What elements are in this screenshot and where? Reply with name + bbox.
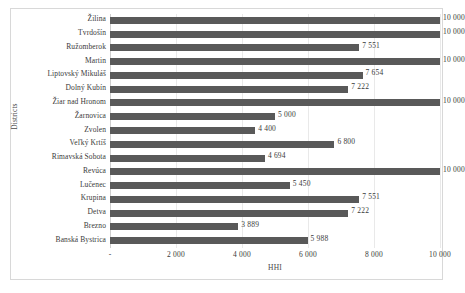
gridline — [440, 14, 441, 248]
bar-value-label: 6 800 — [337, 137, 355, 146]
bar-value-label: 10 000 — [443, 27, 465, 36]
bar-row[interactable]: 10 000 — [110, 56, 440, 69]
bar-row[interactable]: 4 400 — [110, 125, 440, 138]
x-tick-label: 6 000 — [299, 250, 317, 259]
bar-value-label: 7 222 — [351, 206, 369, 215]
bar[interactable] — [110, 210, 348, 217]
bar[interactable] — [110, 237, 308, 244]
category-label: Liptovský Mikuláš — [18, 69, 106, 78]
bar-value-label: 7 222 — [351, 82, 369, 91]
bar-row[interactable]: 5 450 — [110, 180, 440, 193]
bar-row[interactable]: 5 988 — [110, 235, 440, 248]
category-label: Krupina — [18, 193, 106, 202]
bar-row[interactable]: 10 000 — [110, 166, 440, 179]
bar[interactable] — [110, 72, 363, 79]
category-axis-labels: ŽilinaTvrdošínRužomberokMartinLiptovský … — [18, 14, 106, 248]
category-label: Tvrdošín — [18, 28, 106, 37]
bar[interactable] — [110, 127, 255, 134]
category-label: Detva — [18, 207, 106, 216]
bar[interactable] — [110, 86, 348, 93]
category-label: Lučenec — [18, 180, 106, 189]
bar-row[interactable]: 7 654 — [110, 69, 440, 82]
category-label: Dolný Kubín — [18, 83, 106, 92]
category-label: Žarnovica — [18, 111, 106, 120]
category-label: Rimavská Sobota — [18, 152, 106, 161]
bar-value-label: 4 694 — [268, 151, 286, 160]
bar-row[interactable]: 7 551 — [110, 42, 440, 55]
x-tick-label: 2 000 — [167, 250, 185, 259]
bar-value-label: 3 889 — [241, 220, 259, 229]
bar-value-label: 5 450 — [293, 179, 311, 188]
category-label: Žiar nad Hronom — [18, 97, 106, 106]
bar-row[interactable]: 7 222 — [110, 207, 440, 220]
bar[interactable] — [110, 99, 440, 106]
x-tick-label: 8 000 — [365, 250, 383, 259]
category-label: Revúca — [18, 166, 106, 175]
category-label: Žilina — [18, 14, 106, 23]
category-label: Ružomberok — [18, 42, 106, 51]
bar-value-label: 7 551 — [362, 192, 380, 201]
bar-value-label: 10 000 — [443, 13, 465, 22]
bar-row[interactable]: 10 000 — [110, 14, 440, 27]
bar-row[interactable]: 5 000 — [110, 111, 440, 124]
bar[interactable] — [110, 155, 265, 162]
bar[interactable] — [110, 58, 440, 65]
bar-value-label: 10 000 — [443, 55, 465, 64]
bar-row[interactable]: 10 000 — [110, 28, 440, 41]
bar[interactable] — [110, 17, 440, 24]
bar-value-label: 10 000 — [443, 96, 465, 105]
bar[interactable] — [110, 196, 359, 203]
category-label: Veľký Krtíš — [18, 138, 106, 147]
bar[interactable] — [110, 168, 440, 175]
category-label: Brezno — [18, 221, 106, 230]
bar-value-label: 7 551 — [362, 41, 380, 50]
bar-row[interactable]: 10 000 — [110, 97, 440, 110]
bar-value-label: 7 654 — [366, 68, 384, 77]
bar[interactable] — [110, 113, 275, 120]
bar[interactable] — [110, 31, 440, 38]
x-axis-tick-labels: -2 0004 0006 0008 00010 000 — [110, 250, 440, 262]
bar-value-label: 10 000 — [443, 165, 465, 174]
bar-row[interactable]: 7 551 — [110, 193, 440, 206]
x-tick-label: 10 000 — [429, 250, 451, 259]
bar-row[interactable]: 3 889 — [110, 221, 440, 234]
x-axis-title: HHI — [110, 263, 440, 272]
category-label: Zvolen — [18, 125, 106, 134]
bar-row[interactable]: 4 694 — [110, 152, 440, 165]
x-tick-label: 4 000 — [233, 250, 251, 259]
x-tick-label: - — [109, 250, 112, 259]
bar[interactable] — [110, 182, 290, 189]
plot-area: 10 00010 0007 55110 0007 6547 22210 0005… — [110, 14, 440, 248]
bar[interactable] — [110, 141, 334, 148]
bar-value-label: 5 988 — [311, 234, 329, 243]
bar-row[interactable]: 7 222 — [110, 83, 440, 96]
bar-value-label: 5 000 — [278, 110, 296, 119]
bar[interactable] — [110, 44, 359, 51]
bar-value-label: 4 400 — [258, 124, 276, 133]
category-label: Martin — [18, 56, 106, 65]
bar[interactable] — [110, 223, 238, 230]
bars-layer: 10 00010 0007 55110 0007 6547 22210 0005… — [110, 14, 440, 248]
category-label: Banská Bystrica — [18, 235, 106, 244]
bar-row[interactable]: 6 800 — [110, 138, 440, 151]
